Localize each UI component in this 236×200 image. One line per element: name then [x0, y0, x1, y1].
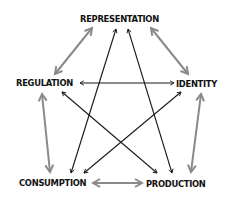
- arrow-regulation-consumption: [42, 94, 50, 172]
- arrow-identity-production: [191, 94, 201, 172]
- arrow-representation-identity: [151, 28, 188, 74]
- node-production: PRODUCTION: [146, 179, 206, 189]
- circuit-of-culture-diagram: REPRESENTATION REGULATION IDENTITY CONSU…: [0, 0, 236, 200]
- node-regulation: REGULATION: [16, 78, 73, 88]
- arrow-identity-consumption: [84, 92, 181, 173]
- node-consumption: CONSUMPTION: [19, 178, 86, 188]
- arrow-representation-production: [128, 29, 172, 173]
- node-representation: REPRESENTATION: [80, 14, 159, 24]
- arrow-representation-regulation: [55, 28, 92, 74]
- node-identity: IDENTITY: [176, 79, 217, 89]
- diagram-arrows: [0, 0, 236, 200]
- arrow-regulation-production: [62, 92, 157, 173]
